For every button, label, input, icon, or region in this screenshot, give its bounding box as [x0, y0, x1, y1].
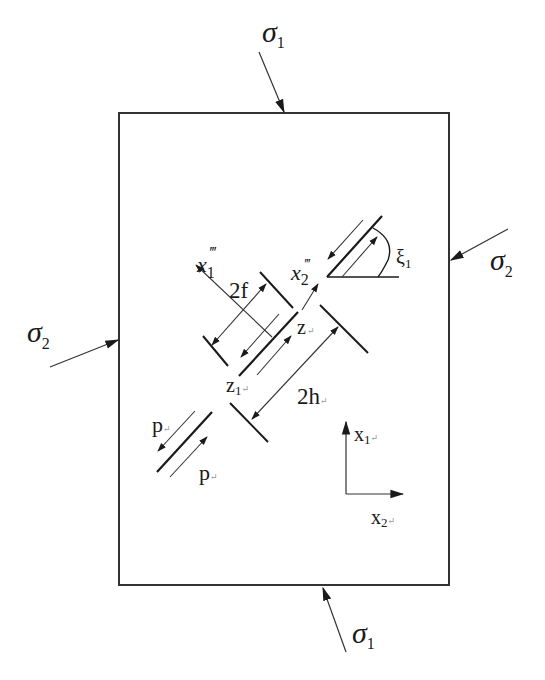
sigma2-right-label: σ2: [490, 243, 513, 280]
central-crack-shear-up: [257, 336, 291, 375]
z1-label: z1↵: [226, 374, 249, 398]
sigma1-top-arrow: [259, 52, 284, 112]
crack-end-marker-upper: [260, 272, 293, 308]
sigma1-top-load: σ1: [259, 15, 285, 112]
angle-arc-xi1: [373, 228, 390, 277]
upper-right-crack: [327, 216, 399, 277]
sigma2-left-arrow: [50, 340, 118, 367]
upper-right-crack-shear-down: [328, 220, 363, 259]
angle-xi1-label: ξ1: [396, 246, 411, 271]
sigma2-left-label: σ2: [27, 315, 50, 352]
crack-diagram: σ1 σ1 σ2 σ2: [0, 0, 545, 680]
p-lower-label: p↵: [199, 460, 218, 485]
specimen-boundary: [119, 113, 449, 585]
spacing-marker-lower: [230, 403, 268, 442]
sigma1-top-label: σ1: [262, 15, 285, 51]
central-crack-shear-down: [241, 314, 279, 357]
sigma2-right-load: σ2: [451, 229, 513, 280]
x1-global-axis-label: x1↵: [354, 423, 378, 447]
x2-global-axis-label: x2↵: [371, 506, 395, 530]
upper-right-crack-line: [327, 216, 382, 277]
sigma1-bottom-arrow: [323, 588, 346, 652]
dimension-2h-label: 2h↵: [297, 384, 328, 409]
x2-local-axis-label: x2‴: [290, 257, 311, 288]
x1-local-axis-label: x1‴: [196, 244, 217, 281]
sigma2-left-load: σ2: [27, 315, 118, 367]
dimension-2f-label: 2f: [229, 278, 249, 303]
sigma1-bottom-load: σ1: [323, 588, 375, 652]
spacing-marker-upper: [320, 305, 368, 353]
p-upper-label: p↵: [152, 412, 171, 437]
central-crack: [239, 312, 298, 376]
upper-right-crack-shear-up: [342, 237, 377, 277]
sigma1-bottom-label: σ1: [352, 616, 375, 652]
z-label: z↵: [297, 316, 314, 338]
